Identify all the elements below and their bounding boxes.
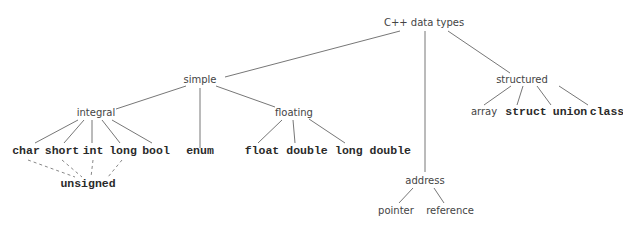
node-char: char xyxy=(12,145,40,157)
edge-structured-array xyxy=(484,86,511,105)
edge-structured-struct xyxy=(517,86,523,105)
node-class: class xyxy=(590,106,623,118)
node-reference: reference xyxy=(426,206,474,216)
node-floating: floating xyxy=(275,108,313,118)
node-struct: struct xyxy=(505,106,546,118)
edge-integral-bool xyxy=(112,120,152,143)
edge-address-reference xyxy=(434,188,444,203)
node-structured: structured xyxy=(496,75,548,85)
node-simple: simple xyxy=(183,75,216,85)
node-pointer: pointer xyxy=(378,206,414,216)
node-address: address xyxy=(405,176,444,186)
edge-address-pointer xyxy=(399,188,413,203)
edge-root-simple xyxy=(225,31,400,77)
edge-structured-union xyxy=(537,86,551,105)
dashed-edge-long-unsigned xyxy=(108,160,122,177)
edge-integral-short xyxy=(64,120,84,143)
edge-floating-float xyxy=(258,120,282,143)
node-root: C++ data types xyxy=(384,18,464,28)
node-enum: enum xyxy=(186,145,214,157)
node-double: double xyxy=(286,145,327,157)
node-array: array xyxy=(471,107,497,117)
edge-simple-integral xyxy=(116,86,186,109)
node-long-double: long double xyxy=(335,145,411,157)
edge-floating-double xyxy=(293,120,295,143)
dashed-edge-int-unsigned xyxy=(91,160,93,177)
edge-integral-char xyxy=(35,120,78,143)
edge-structured-class xyxy=(559,86,588,105)
edge-floating-long-double xyxy=(309,119,345,143)
node-union: union xyxy=(553,106,588,118)
node-bool: bool xyxy=(142,145,170,157)
node-integral: integral xyxy=(77,108,116,118)
node-int: int xyxy=(83,145,104,157)
node-long: long xyxy=(109,145,137,157)
cpp-data-types-diagram: C++ data types simple structured integra… xyxy=(0,0,623,229)
node-short: short xyxy=(45,145,80,157)
node-float: float xyxy=(245,145,280,157)
dashed-edge-char-unsigned xyxy=(28,160,75,177)
node-unsigned: unsigned xyxy=(60,178,115,190)
edge-simple-floating xyxy=(216,86,275,107)
edge-root-structured xyxy=(448,31,510,73)
dashed-edge-short-unsigned xyxy=(62,160,82,177)
